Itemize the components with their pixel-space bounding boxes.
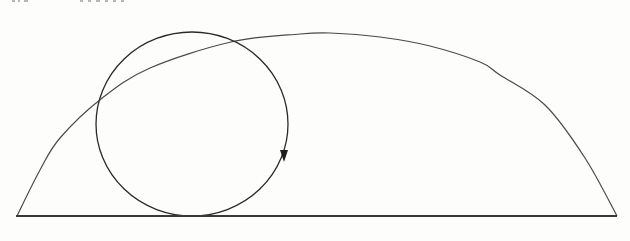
rolling-circle-figure bbox=[0, 0, 630, 241]
rolling-circle bbox=[96, 32, 288, 216]
clipped-text-remnants bbox=[12, 0, 124, 2]
direction-arrow-icon bbox=[280, 150, 288, 162]
traced-curve bbox=[17, 33, 617, 216]
